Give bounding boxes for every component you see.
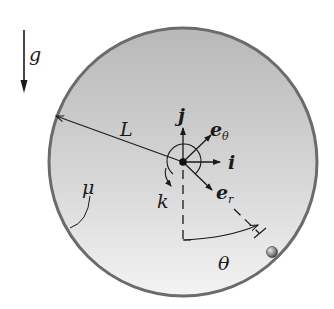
i-vector-label: i: [228, 153, 235, 172]
theta-label: θ: [218, 254, 229, 273]
e-r-label: er: [216, 183, 233, 202]
angular-axis-label: k: [157, 192, 169, 211]
radius-label: L: [120, 120, 133, 139]
hoop-diagram: g L μ k j i eθ er θ: [0, 0, 334, 309]
j-vector-label: j: [178, 106, 185, 125]
gravity-arrow-icon: [21, 30, 28, 93]
friction-label: μ: [82, 178, 94, 197]
diagram-canvas: [0, 0, 334, 309]
e-r-base: e: [216, 181, 228, 203]
gravity-label: g: [29, 45, 41, 64]
e-theta-base: e: [210, 118, 222, 140]
e-theta-sub: θ: [222, 130, 229, 143]
e-theta-label: eθ: [210, 120, 229, 139]
center-pivot: [179, 158, 187, 166]
e-r-sub: r: [228, 193, 233, 206]
particle-ball: [267, 247, 278, 258]
